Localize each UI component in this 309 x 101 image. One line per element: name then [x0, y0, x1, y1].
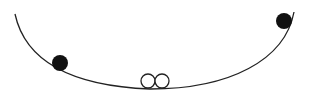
bottom-open-circle-left [141, 74, 155, 88]
left-filled-ball [52, 55, 68, 71]
diagram-canvas: Curved track (U-shaped valley) with two … [0, 0, 309, 101]
diagram-svg [0, 0, 309, 101]
right-filled-ball [276, 13, 292, 29]
bottom-open-circle-right [155, 74, 169, 88]
